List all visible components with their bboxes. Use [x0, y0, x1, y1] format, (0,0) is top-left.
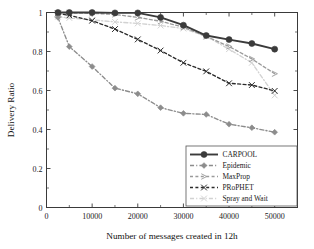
data-point-marker [180, 22, 186, 28]
x-tick-label: 20000 [128, 212, 148, 221]
data-point-marker [66, 10, 72, 16]
legend-label: Spray and Wait [223, 194, 269, 203]
data-point-marker [55, 10, 61, 16]
data-point-marker [158, 14, 164, 20]
legend-label: Epidemic [223, 161, 252, 170]
data-point-marker [201, 152, 207, 158]
data-point-marker [226, 37, 232, 43]
legend-label: PRoPHET [223, 183, 255, 192]
x-tick-label: 0 [45, 212, 49, 221]
data-point-marker [249, 41, 255, 47]
y-tick-label: 1 [39, 9, 43, 18]
x-tick-label: 10000 [82, 212, 102, 221]
data-point-marker [135, 10, 141, 16]
data-point-marker [89, 10, 95, 16]
y-tick-label: 0.8 [33, 48, 43, 57]
chart-figure: 0100002000030000400005000000.20.40.60.81… [0, 0, 314, 249]
x-axis-title: Number of messages created in 12h [106, 231, 238, 241]
data-point-marker [112, 10, 118, 16]
y-tick-label: 0.6 [33, 87, 43, 96]
y-tick-label: 0.2 [33, 165, 43, 174]
data-point-marker [203, 33, 209, 39]
delivery-ratio-line-chart: 0100002000030000400005000000.20.40.60.81… [0, 0, 314, 249]
legend-label: CARPOOL [223, 150, 258, 159]
y-tick-label: 0 [39, 204, 43, 213]
chart-legend: CARPOOLEpidemicMaxPropPRoPHETSpray and W… [186, 146, 297, 206]
legend-label: MaxProp [223, 172, 251, 181]
data-point-marker [272, 46, 278, 52]
x-tick-label: 50000 [265, 212, 285, 221]
y-tick-label: 0.4 [33, 126, 43, 135]
x-tick-label: 30000 [173, 212, 193, 221]
x-tick-label: 40000 [219, 212, 239, 221]
y-axis-title: Delivery Ratio [6, 82, 16, 137]
